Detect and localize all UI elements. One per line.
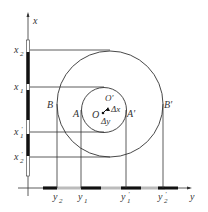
svg-text:x: x — [13, 151, 19, 162]
x-tick-x2-prime: x 2 ′ — [13, 150, 24, 165]
svg-text:1: 1 — [20, 87, 24, 95]
point-B-label: B — [47, 99, 53, 110]
svg-text:x: x — [13, 81, 19, 92]
svg-text:2: 2 — [20, 50, 24, 58]
y-axis-bar — [43, 187, 178, 190]
x-axis-label: x — [32, 15, 38, 26]
svg-text:2: 2 — [59, 197, 63, 205]
svg-text:y: y — [157, 191, 163, 202]
svg-text:y: y — [52, 191, 58, 202]
svg-text:1: 1 — [20, 132, 24, 140]
x-tick-x1: x 1 — [13, 81, 24, 95]
svg-text:2: 2 — [164, 197, 168, 205]
x-tick-x2: x 2 — [13, 44, 24, 58]
point-O-prime-label: O′ — [105, 93, 114, 103]
svg-text:y: y — [77, 191, 83, 202]
delta-x-label: Δx — [110, 104, 120, 114]
coordinate-diagram: x y x 2 x 1 x 1 ′ x 2 ′ y 2 y 1 y 1 ′ y … — [0, 0, 208, 212]
y-tick-y2: y 2 — [52, 191, 63, 205]
y-tick-y1: y 1 — [77, 191, 88, 205]
large-circle — [57, 51, 163, 157]
svg-text:x: x — [13, 44, 19, 55]
svg-text:x: x — [13, 126, 19, 137]
point-A-prime-label: A′ — [126, 108, 136, 119]
delta-y-label: Δy — [100, 116, 110, 126]
svg-text:2: 2 — [20, 157, 24, 165]
horizontal-projection-lines — [30, 50, 110, 157]
point-O-label: O — [92, 109, 99, 120]
x-axis-bar — [27, 40, 30, 176]
displacement-marker — [102, 107, 110, 114]
y-axis-label: y — [189, 191, 195, 202]
svg-text:y: y — [120, 191, 126, 202]
point-B-prime-label: B′ — [164, 99, 173, 110]
y-tick-y2-prime: y 2 ′ — [157, 190, 168, 205]
svg-text:1: 1 — [84, 197, 88, 205]
diagram-canvas: x y x 2 x 1 x 1 ′ x 2 ′ y 2 y 1 y 1 ′ y … — [0, 0, 208, 212]
point-A-label: A — [72, 108, 80, 119]
x-tick-x1-prime: x 1 ′ — [13, 125, 24, 140]
y-tick-y1-prime: y 1 ′ — [120, 190, 131, 205]
svg-text:1: 1 — [127, 197, 131, 205]
